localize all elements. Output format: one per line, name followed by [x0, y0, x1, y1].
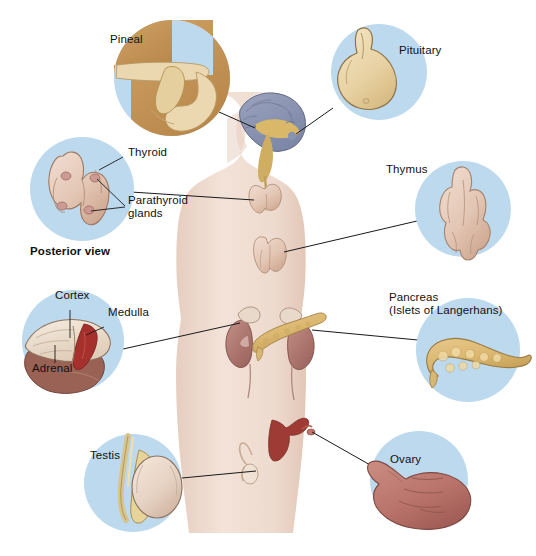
label-adrenal: Adrenal [32, 362, 72, 375]
pituitary-inset [331, 24, 427, 120]
label-testis: Testis [90, 449, 120, 462]
thymus-gland [254, 237, 287, 273]
ovary-inset [368, 431, 471, 529]
label-pineal: Pineal [110, 33, 143, 46]
diagram-artwork [0, 0, 536, 556]
label-medulla: Medulla [108, 306, 149, 319]
label-posterior-view: Posterior view [30, 245, 110, 258]
leader-ovary [312, 432, 372, 466]
label-cortex: Cortex [55, 289, 89, 302]
label-parathyroid-line1: Parathyroid [128, 194, 188, 207]
label-pancreas-line1: Pancreas [389, 291, 438, 304]
thymus-inset [415, 161, 511, 260]
label-pituitary: Pituitary [399, 44, 441, 57]
thyroid-parathyroid-inset [30, 137, 134, 241]
endocrine-system-diagram: Pineal Pituitary Thyroid Parathyroid gla… [0, 0, 536, 556]
leader-pancreas [312, 330, 418, 340]
thyroid-gland [249, 184, 281, 213]
label-thymus: Thymus [386, 163, 428, 176]
label-thyroid: Thyroid [128, 146, 167, 159]
label-ovary: Ovary [390, 453, 421, 466]
label-pancreas-line2: (Islets of Langerhans) [389, 304, 502, 317]
label-parathyroid-line2: glands [128, 207, 163, 220]
